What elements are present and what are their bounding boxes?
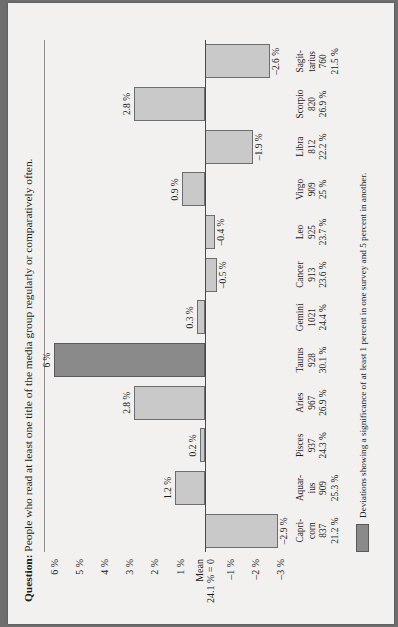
bar-capri-corn bbox=[205, 513, 278, 547]
chart-legend: Deviations showing a significance of at … bbox=[356, 172, 369, 551]
bar-value-label: 1.2 % bbox=[163, 476, 173, 498]
category-count: 928 bbox=[307, 338, 319, 381]
axis-tick-label: 4 % bbox=[99, 559, 110, 575]
category-column: Cancer91323.6 % bbox=[295, 253, 330, 296]
category-column: Leo92523.7 % bbox=[295, 210, 330, 253]
category-count: 760 bbox=[318, 40, 330, 83]
mean-label-line1: Mean bbox=[194, 559, 205, 603]
category-column: Taurus92830.1 % bbox=[295, 338, 330, 381]
axis-tick-label: 3 % bbox=[124, 559, 135, 575]
category-count: 909 bbox=[307, 168, 319, 211]
bar-value-label: 0.2 % bbox=[188, 434, 198, 456]
bar-gemini bbox=[197, 300, 205, 334]
category-column: Gemini102124.4 % bbox=[295, 296, 330, 339]
category-count: 913 bbox=[307, 253, 319, 296]
category-name: Sagit- tarius bbox=[295, 40, 318, 83]
category-name: Taurus bbox=[295, 338, 307, 381]
category-percentage: 26.9 % bbox=[318, 82, 330, 125]
category-count: 967 bbox=[307, 381, 319, 424]
plot-area: 6 %5 %4 %3 %2 %1 %Mean24.1 % = 0–1 %–2 %… bbox=[41, 40, 293, 552]
rotated-figure-wrapper: Question: People who read at least one t… bbox=[15, 14, 387, 614]
bar-value-label: –2.9 % bbox=[279, 517, 289, 544]
category-table: Capri- corn83721.2 %Aquar- ius90925.3 %P… bbox=[295, 40, 351, 552]
page-frame: Question: People who read at least one t… bbox=[0, 0, 398, 627]
bar-sagit-tarius bbox=[205, 44, 271, 78]
bar-leo bbox=[205, 214, 215, 248]
bar-cancer bbox=[205, 257, 218, 291]
bar-scorpio bbox=[134, 86, 205, 120]
category-name: Capri- corn bbox=[295, 509, 318, 552]
category-percentage: 24.3 % bbox=[318, 424, 330, 467]
category-percentage: 25 % bbox=[318, 168, 330, 211]
category-column: Aquar- ius90925.3 % bbox=[295, 466, 341, 509]
bar-virgo bbox=[182, 172, 205, 206]
bar-aquar-ius bbox=[175, 470, 205, 504]
category-count: 837 bbox=[318, 509, 330, 552]
category-percentage: 30.1 % bbox=[318, 338, 330, 381]
bar-aries bbox=[134, 385, 205, 419]
top-rule bbox=[44, 40, 45, 552]
chart-title: Question: People who read at least one t… bbox=[22, 24, 35, 602]
bar-value-label: 2.8 % bbox=[122, 391, 132, 413]
bar-value-label: –2.6 % bbox=[271, 47, 281, 74]
category-column: Libra81222.2 % bbox=[295, 125, 330, 168]
axis-tick-label: –2 % bbox=[250, 559, 261, 580]
mean-label-line2: 24.1 % = 0 bbox=[205, 559, 216, 603]
bar-value-label: –0.5 % bbox=[218, 261, 228, 288]
chart-figure: Question: People who read at least one t… bbox=[15, 14, 387, 614]
bar-libra bbox=[205, 129, 253, 163]
category-percentage: 23.6 % bbox=[318, 253, 330, 296]
bar-value-label: 6 % bbox=[42, 352, 52, 367]
category-count: 925 bbox=[307, 210, 319, 253]
category-name: Pisces bbox=[295, 424, 307, 467]
chart-title-text: People who read at least one title of th… bbox=[22, 158, 34, 554]
category-percentage: 23.7 % bbox=[318, 210, 330, 253]
category-count: 937 bbox=[307, 424, 319, 467]
bar-value-label: –1.9 % bbox=[254, 133, 264, 160]
category-percentage: 21.2 % bbox=[330, 509, 342, 552]
zero-baseline bbox=[205, 40, 206, 552]
axis-tick-label: 6 % bbox=[48, 559, 59, 575]
category-percentage: 24.4 % bbox=[318, 296, 330, 339]
category-percentage: 25.3 % bbox=[330, 466, 342, 509]
axis-tick-label: 5 % bbox=[73, 559, 84, 575]
axis-tick-label: 2 % bbox=[149, 559, 160, 575]
bar-value-label: 0.9 % bbox=[170, 178, 180, 200]
axis-tick-label: –1 % bbox=[225, 559, 236, 580]
legend-swatch-significant bbox=[356, 524, 369, 552]
category-count: 812 bbox=[307, 125, 319, 168]
category-column: Pisces93724.3 % bbox=[295, 424, 330, 467]
category-count: 820 bbox=[307, 82, 319, 125]
category-name: Libra bbox=[295, 125, 307, 168]
category-column: Aries96726.9 % bbox=[295, 381, 330, 424]
bar-value-label: 0.3 % bbox=[185, 306, 195, 328]
category-percentage: 26.9 % bbox=[318, 381, 330, 424]
category-column: Scorpio82026.9 % bbox=[295, 82, 330, 125]
category-name: Virgo bbox=[295, 168, 307, 211]
bar-value-label: –0.4 % bbox=[216, 218, 226, 245]
category-name: Aries bbox=[295, 381, 307, 424]
bar-value-label: 2.8 % bbox=[122, 92, 132, 114]
bar-taurus bbox=[54, 342, 205, 376]
category-percentage: 21.5 % bbox=[330, 40, 342, 83]
category-name: Gemini bbox=[295, 296, 307, 339]
chart-title-prefix: Question: bbox=[22, 554, 34, 601]
category-column: Capri- corn83721.2 % bbox=[295, 509, 341, 552]
category-column: Sagit- tarius76021.5 % bbox=[295, 40, 341, 83]
category-name: Aquar- ius bbox=[295, 466, 318, 509]
legend-label: Deviations showing a significance of at … bbox=[358, 172, 368, 517]
category-name: Scorpio bbox=[295, 82, 307, 125]
category-count: 909 bbox=[318, 466, 330, 509]
axis-tick-mean: Mean24.1 % = 0 bbox=[194, 559, 216, 603]
category-column: Virgo90925 % bbox=[295, 168, 330, 211]
category-count: 1021 bbox=[307, 296, 319, 339]
axis-tick-label: –3 % bbox=[275, 559, 286, 580]
scanned-page: Question: People who read at least one t… bbox=[8, 3, 394, 624]
category-name: Leo bbox=[295, 210, 307, 253]
axis-tick-label: 1 % bbox=[174, 559, 185, 575]
category-name: Cancer bbox=[295, 253, 307, 296]
category-percentage: 22.2 % bbox=[318, 125, 330, 168]
